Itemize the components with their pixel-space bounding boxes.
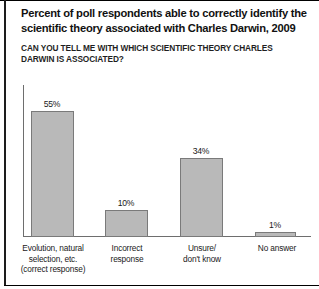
x-tick-label-0-line-1: selection, etc.	[12, 254, 94, 265]
x-tick-label-1-line-1: response	[92, 254, 162, 265]
plot-area: 55% 10% 34% 1% Evolution, natural select…	[0, 0, 319, 289]
x-tick-label-2-line-1: don't know	[167, 254, 237, 265]
x-tick-label-1: Incorrect response	[92, 243, 162, 264]
x-tick-label-0-line-0: Evolution, natural	[12, 243, 94, 254]
bar-2	[180, 158, 223, 237]
x-tick-label-2: Unsure/ don't know	[167, 243, 237, 264]
bar-value-label-0: 55%	[29, 99, 75, 109]
chart-figure: Percent of poll respondents able to corr…	[0, 0, 319, 289]
bar-3	[255, 232, 296, 237]
x-tick-label-1-line-0: Incorrect	[92, 243, 162, 254]
bar-0	[31, 111, 74, 237]
bar-value-label-2: 34%	[178, 146, 224, 156]
x-tick-label-0-line-2: (correct response)	[12, 264, 94, 275]
bar-value-label-1: 10%	[103, 198, 149, 208]
x-tick-label-3: No answer	[242, 243, 312, 254]
y-axis-line	[23, 85, 24, 236]
bar-1	[105, 210, 148, 237]
x-tick-label-2-line-0: Unsure/	[167, 243, 237, 254]
x-tick-label-3-line-0: No answer	[242, 243, 312, 254]
bar-value-label-3: 1%	[252, 220, 298, 230]
x-tick-label-0: Evolution, natural selection, etc. (corr…	[12, 243, 94, 275]
